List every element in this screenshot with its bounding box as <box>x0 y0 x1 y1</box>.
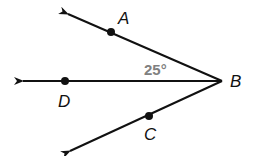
label-c: C <box>144 125 157 144</box>
label-d: D <box>58 92 70 111</box>
label-a: A <box>117 9 129 28</box>
angle-measure: 25° <box>144 61 167 78</box>
diagram-canvas: A D C B 25° <box>0 0 253 156</box>
point-d <box>61 77 69 85</box>
point-c <box>145 112 153 120</box>
label-b: B <box>230 72 241 91</box>
point-a <box>107 28 115 36</box>
angle-diagram: A D C B 25° <box>0 0 253 156</box>
